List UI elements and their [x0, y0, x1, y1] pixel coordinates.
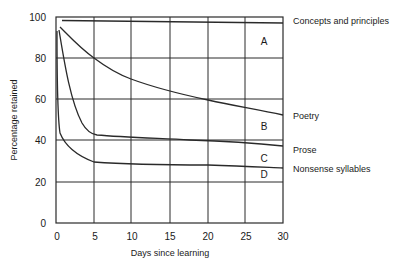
line-prose — [59, 30, 283, 146]
x-axis-ticks: 0 5 10 15 20 25 30 — [54, 231, 289, 242]
grid — [56, 17, 283, 223]
line-concepts-and-principles — [62, 21, 283, 24]
x-tick-10: 10 — [126, 231, 138, 242]
label-prose: Prose — [293, 145, 317, 155]
label-nonsense-syllables: Nonsense syllables — [293, 164, 371, 174]
y-tick-100: 100 — [29, 12, 46, 23]
label-concepts-and-principles: Concepts and principles — [293, 16, 390, 26]
region-c-label: C — [260, 153, 267, 164]
series-labels: Concepts and principles Poetry Prose Non… — [293, 16, 390, 174]
retention-chart: 0 20 40 60 80 100 0 5 10 15 20 25 30 Day… — [0, 0, 399, 266]
y-axis-ticks: 0 20 40 60 80 100 — [29, 12, 46, 229]
region-b-label: B — [261, 121, 268, 132]
x-tick-20: 20 — [202, 231, 214, 242]
label-poetry: Poetry — [293, 111, 320, 121]
region-a-label: A — [261, 36, 268, 47]
line-poetry — [60, 27, 283, 115]
x-tick-15: 15 — [164, 231, 176, 242]
y-tick-80: 80 — [35, 53, 47, 64]
y-tick-0: 0 — [40, 218, 46, 229]
y-tick-40: 40 — [35, 135, 47, 146]
x-axis-label: Days since learning — [131, 248, 210, 258]
y-axis-label: Percentage retained — [9, 79, 19, 160]
x-tick-5: 5 — [92, 231, 98, 242]
x-tick-25: 25 — [240, 231, 252, 242]
y-tick-60: 60 — [35, 94, 47, 105]
region-d-label: D — [260, 169, 267, 180]
y-tick-20: 20 — [35, 177, 47, 188]
x-tick-0: 0 — [54, 231, 60, 242]
x-tick-30: 30 — [277, 231, 289, 242]
